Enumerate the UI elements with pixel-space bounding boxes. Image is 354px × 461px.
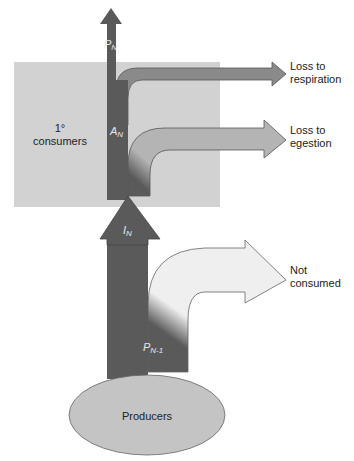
consumers-label: 1° consumers: [30, 122, 90, 148]
trunk-bottom: [107, 239, 148, 379]
symbol-a-n: AN: [110, 125, 123, 139]
consumers-label-sub: consumers: [30, 135, 90, 148]
symbol-p-n: PN: [104, 38, 117, 52]
egestion-label: Loss to egestion: [290, 124, 332, 150]
respiration-label: Loss to respiration: [290, 60, 341, 86]
consumers-label-main: 1°: [30, 122, 90, 135]
production-arrowhead: [100, 8, 122, 24]
symbol-p-n-minus-1: PN-1: [143, 341, 163, 355]
not-consumed-label: Not consumed: [290, 264, 341, 290]
producers-label: Producers: [107, 410, 187, 423]
not-consumed-arrow: [148, 240, 286, 372]
production-shaft: [107, 22, 116, 112]
symbol-i-n: IN: [123, 224, 132, 238]
energy-flow-diagram: 1° consumers Producers PN AN IN PN-1 Los…: [0, 0, 354, 461]
